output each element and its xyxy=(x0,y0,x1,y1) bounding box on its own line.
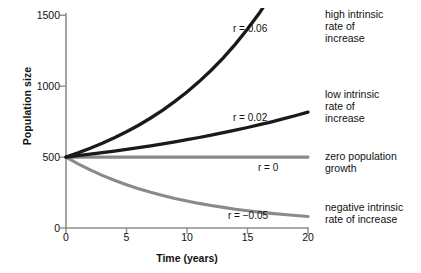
curve-r-0-02 xyxy=(66,112,308,157)
curve-annotation-r-0: r = 0 xyxy=(258,163,278,173)
curve-annotation-r-0-02: r = 0.02 xyxy=(233,113,267,123)
series-label-zero-growth: zero population growth xyxy=(325,151,421,175)
x-tick-15: 15 xyxy=(233,232,263,243)
population-growth-chart: 1500 1000 500 0 0 5 10 15 20 Population … xyxy=(0,0,421,273)
curve-annotation-r-negative-0-05: r = −0.05 xyxy=(228,211,268,221)
series-label-negative-intrinsic: negative intrinsic rate of increase xyxy=(325,202,421,226)
y-axis-title: Population size xyxy=(21,31,33,181)
x-tick-0: 0 xyxy=(51,232,81,243)
curve-annotation-r-0-06: r = 0.06 xyxy=(233,24,267,34)
x-axis-title: Time (years) xyxy=(66,252,308,264)
x-tick-10: 10 xyxy=(172,232,202,243)
y-tick-marks xyxy=(60,15,66,228)
y-tick-1500: 1500 xyxy=(24,10,60,21)
x-tick-20: 20 xyxy=(293,232,323,243)
series-label-low-intrinsic: low intrinsic rate of increase xyxy=(325,89,421,124)
series-label-high-intrinsic: high intrinsic rate of increase xyxy=(325,9,421,44)
x-tick-5: 5 xyxy=(112,232,142,243)
